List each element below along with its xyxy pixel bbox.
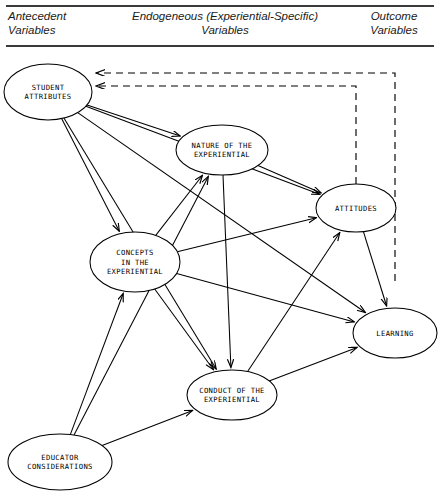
node-nature[interactable]: NATURE OF THEEXPERIENTIAL xyxy=(176,125,268,175)
node-concepts[interactable]: CONCEPTSIN THEEXPERIENTIAL xyxy=(90,232,180,292)
diagram-svg: STUDENTATTRIBUTESNATURE OF THEEXPERIENTI… xyxy=(0,52,440,498)
figure-root: Antecedent Variables Endogeneous (Experi… xyxy=(0,0,440,498)
node-label-learning: LEARNING xyxy=(376,329,413,338)
node-learning[interactable]: LEARNING xyxy=(353,308,437,358)
column-heading-outcome: Outcome Variables xyxy=(352,9,436,37)
header-rule-top xyxy=(6,5,434,7)
edge-conduct-attitudes xyxy=(248,233,340,372)
edge-sa-nature xyxy=(87,105,180,136)
node-label-student-attributes: STUDENTATTRIBUTES xyxy=(25,83,72,101)
edge-concepts-conduct xyxy=(155,289,214,370)
edge-educator-concepts xyxy=(70,294,123,435)
edge-educator-conduct xyxy=(102,410,193,445)
node-label-conduct: CONDUCT OF THEEXPERIENTIAL xyxy=(199,386,264,404)
path-diagram: STUDENTATTRIBUTESNATURE OF THEEXPERIENTI… xyxy=(0,52,440,498)
edge-concepts-learning xyxy=(177,273,355,322)
node-label-attitudes: ATTITUDES xyxy=(335,204,377,213)
node-educator[interactable]: EDUCATORCONSIDERATIONS xyxy=(8,434,112,490)
header-rule-bottom xyxy=(6,45,434,47)
edge-conduct-learning xyxy=(269,347,357,381)
node-student-attributes[interactable]: STUDENTATTRIBUTES xyxy=(4,64,92,120)
column-heading-endogeneous: Endogeneous (Experiential-Specific) Vari… xyxy=(110,9,340,37)
node-conduct[interactable]: CONDUCT OF THEEXPERIENTIAL xyxy=(187,370,277,420)
node-layer: STUDENTATTRIBUTESNATURE OF THEEXPERIENTI… xyxy=(4,64,437,490)
column-headings: Antecedent Variables Endogeneous (Experi… xyxy=(0,0,440,52)
edge-concepts-nature xyxy=(156,175,203,235)
edge-attitudes-learning xyxy=(363,232,386,306)
node-attitudes[interactable]: ATTITUDES xyxy=(316,184,396,232)
edge-nature-conduct xyxy=(223,175,231,368)
edge-concepts-attitudes xyxy=(177,218,316,252)
node-label-nature: NATURE OF THEEXPERIENTIAL xyxy=(192,141,253,159)
edge-nature-attitudes xyxy=(258,166,321,193)
